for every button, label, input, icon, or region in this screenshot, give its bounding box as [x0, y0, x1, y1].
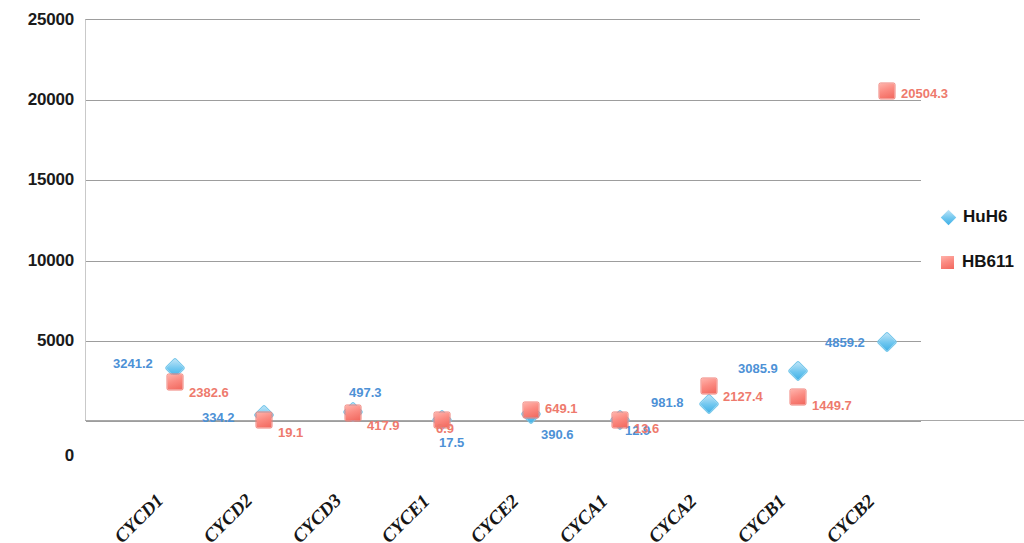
y-axis-tick-label: 25000	[4, 11, 74, 28]
data-label-hb611-cyce2: 649.1	[545, 402, 578, 415]
data-label-hb611-cycd3: 417.9	[367, 419, 400, 432]
x-axis-category-cyce2: CYCE2	[466, 490, 523, 543]
data-label-hb611-cycd1: 2382.6	[189, 386, 229, 399]
data-point-hb611-cycd1[interactable]	[167, 373, 184, 390]
x-axis-category-cycb2: CYCB2	[822, 490, 879, 543]
gridline	[86, 180, 921, 181]
legend-label: HuH6	[963, 207, 1007, 227]
data-label-hb611-cyce1: 6.9	[436, 422, 454, 435]
x-axis-category-cycd1: CYCD1	[110, 489, 168, 543]
x-axis: CYCD1CYCD2CYCD3CYCE1CYCE2CYCA1CYCA2CYCB1…	[0, 470, 1024, 543]
y-axis-tick-label: 10000	[4, 252, 74, 269]
legend-item-hb611[interactable]: HB611	[941, 248, 1024, 276]
chart-legend: HuH6HB611	[941, 203, 1024, 293]
data-label-huh6-cyca2: 981.8	[651, 396, 684, 409]
data-point-hb611-cyce2[interactable]	[523, 401, 540, 418]
square-marker-icon	[941, 256, 954, 269]
data-point-hb611-cyca2[interactable]	[701, 377, 718, 394]
gridline	[86, 261, 921, 262]
y-axis: 0500010000150002000025000	[0, 0, 74, 543]
gridline	[86, 341, 921, 342]
data-label-hb611-cyca2: 2127.4	[723, 390, 763, 403]
data-label-hb611-cycd2: 19.1	[278, 426, 303, 439]
x-axis-category-cyce1: CYCE1	[377, 490, 434, 543]
legend-item-huh6[interactable]: HuH6	[941, 203, 1024, 231]
data-label-hb611-cyca1: 13.6	[634, 422, 659, 435]
legend-label: HB611	[962, 252, 1014, 272]
data-point-hb611-cycd2[interactable]	[256, 411, 273, 428]
data-point-hb611-cycb2[interactable]	[879, 83, 896, 100]
cyclin-expression-scatter-chart: 0500010000150002000025000 3241.2334.2497…	[0, 0, 1024, 543]
x-axis-category-cycd3: CYCD3	[288, 489, 346, 543]
data-label-huh6-cyce1: 17.5	[439, 436, 464, 449]
data-label-hb611-cycb2: 20504.3	[901, 87, 948, 100]
data-label-huh6-cycb1: 3085.9	[738, 362, 778, 375]
data-label-hb611-cycb1: 1449.7	[812, 399, 852, 412]
data-label-huh6-cycd2: 334.2	[202, 411, 235, 424]
data-label-huh6-cycd3: 497.3	[349, 386, 382, 399]
data-label-huh6-cyce2: 390.6	[541, 428, 574, 441]
x-axis-category-cyca1: CYCA1	[555, 490, 612, 543]
y-axis-tick-label: 20000	[4, 91, 74, 108]
diamond-marker-icon	[941, 209, 957, 225]
y-axis-tick-label: 5000	[4, 332, 74, 349]
data-point-hb611-cycd3[interactable]	[345, 405, 362, 422]
x-axis-category-cycd2: CYCD2	[199, 489, 257, 543]
x-axis-category-cyca2: CYCA2	[644, 490, 701, 543]
data-label-huh6-cycd1: 3241.2	[113, 357, 153, 370]
data-point-hb611-cycb1[interactable]	[790, 388, 807, 405]
data-label-huh6-cycb2: 4859.2	[825, 336, 865, 349]
plot-area	[85, 19, 920, 420]
y-axis-tick-label: 15000	[4, 171, 74, 188]
x-axis-category-cycb1: CYCB1	[733, 490, 790, 543]
data-point-hb611-cyca1[interactable]	[612, 411, 629, 428]
gridline	[86, 100, 921, 101]
y-axis-tick-label: 0	[4, 447, 74, 464]
